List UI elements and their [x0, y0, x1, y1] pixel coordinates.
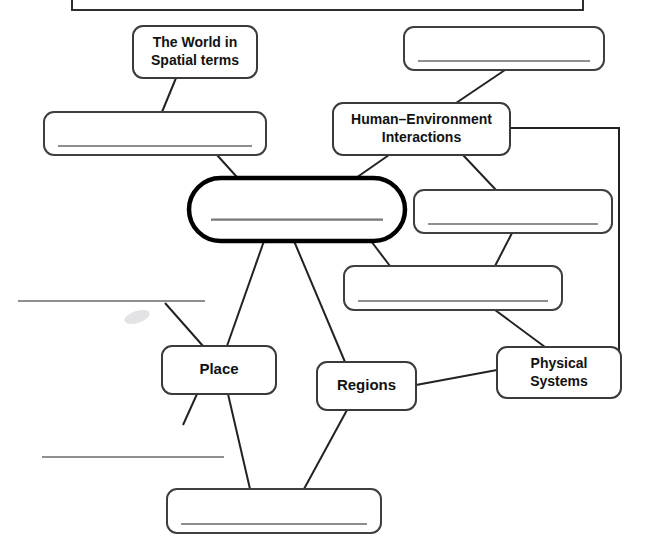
node-blank-bottom[interactable]	[167, 489, 381, 533]
node-regions-label: Regions	[337, 376, 396, 393]
node-layer: The World inSpatial termsHuman–Environme…	[18, 0, 621, 533]
node-blank-top-right-outline[interactable]	[404, 27, 604, 70]
connector-center-to-blank-center-lower	[371, 241, 390, 266]
connector-place-to-blank-left-cutoff-lower	[183, 394, 197, 425]
node-physical-systems: PhysicalSystems	[497, 347, 621, 398]
top-banner-box-outline[interactable]	[72, 0, 583, 10]
connector-regions-to-blank-bottom	[304, 410, 347, 489]
connector-human-environment-to-physical-systems-right-rail	[510, 128, 619, 352]
node-world-in-spatial-terms: The World inSpatial terms	[133, 26, 257, 78]
node-center-blank-geography[interactable]	[189, 178, 405, 241]
node-blank-center-lower-outline[interactable]	[344, 266, 562, 310]
scan-artifact-layer	[123, 307, 151, 326]
concept-map-diagram: The World inSpatial termsHuman–Environme…	[0, 0, 648, 547]
connector-human-environment-to-blank-right-mid	[463, 155, 496, 190]
node-blank-center-lower[interactable]	[344, 266, 562, 310]
node-human-environment-interactions: Human–EnvironmentInteractions	[333, 103, 510, 155]
node-place: Place	[162, 346, 276, 394]
connector-place-to-blank-bottom	[228, 394, 250, 489]
node-place-label: Place	[199, 360, 238, 377]
concept-map-canvas: The World inSpatial termsHuman–Environme…	[0, 0, 648, 547]
connector-blank-right-mid-to-blank-center-lower	[495, 233, 512, 266]
node-center-blank-geography-outline[interactable]	[189, 178, 405, 241]
connector-world-spatial-to-blank-left-upper	[162, 78, 176, 112]
connector-center-to-place	[227, 241, 264, 346]
connector-blank-center-lower-to-physical-systems	[495, 310, 545, 347]
top-banner-box[interactable]	[72, 0, 583, 10]
connector-center-to-regions	[294, 241, 345, 362]
node-blank-right-middle[interactable]	[414, 190, 612, 233]
node-blank-left-upper[interactable]	[44, 112, 266, 155]
node-regions: Regions	[317, 362, 416, 410]
node-blank-left-upper-outline[interactable]	[44, 112, 266, 155]
node-blank-right-middle-outline[interactable]	[414, 190, 612, 233]
connector-blank-top-right-to-human-environment	[456, 70, 505, 103]
node-blank-top-right[interactable]	[404, 27, 604, 70]
connector-regions-to-physical-systems	[416, 370, 497, 385]
node-blank-bottom-outline[interactable]	[167, 489, 381, 533]
connector-blank-left-cutoff-upper-to-place	[165, 303, 203, 346]
scan-smudge	[123, 307, 151, 326]
